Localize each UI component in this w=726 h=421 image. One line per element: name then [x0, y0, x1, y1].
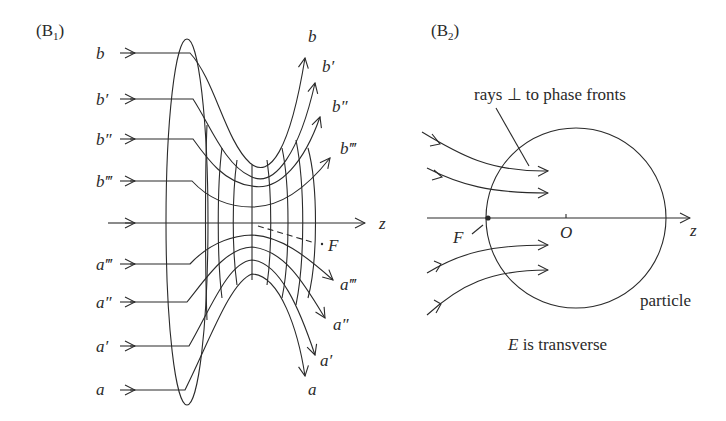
particle-label: particle — [640, 291, 691, 310]
svg-text:a″: a″ — [96, 293, 113, 312]
focus-label-b1: F — [327, 236, 339, 255]
svg-text:b″: b″ — [96, 130, 113, 149]
svg-text:b‴: b‴ — [96, 172, 113, 191]
lens-ellipse — [166, 39, 208, 405]
labels-incoming: b b′ b″ b‴ a‴ a″ a′ a — [96, 44, 113, 399]
origin-label: O — [560, 223, 572, 242]
svg-text:a′: a′ — [96, 337, 109, 356]
rays-bottom — [130, 235, 333, 390]
panel-b2-label: (B2) — [431, 21, 459, 42]
focus-point-b2 — [485, 215, 490, 220]
svg-text:b: b — [308, 27, 317, 46]
svg-text:a‴: a‴ — [96, 255, 113, 274]
svg-text:a′: a′ — [320, 351, 333, 370]
focus-label-b2: F — [452, 228, 464, 247]
svg-text:a‴: a‴ — [340, 275, 357, 294]
panel-b1: (B1) — [36, 21, 386, 405]
svg-text:a: a — [308, 380, 317, 399]
svg-text:a: a — [96, 380, 105, 399]
incoming-arrows — [108, 53, 135, 390]
focus-point-b1 — [321, 243, 323, 245]
svg-text:b′: b′ — [322, 57, 335, 76]
caption: E is transverse — [507, 335, 607, 354]
panel-b2: (B2) rays ⊥ to phase fronts F O z partic… — [422, 21, 697, 354]
rays-b2 — [422, 132, 548, 315]
annotation-leader — [496, 108, 529, 166]
rays-top — [130, 53, 330, 207]
panel-b1-label: (B1) — [36, 21, 64, 42]
svg-text:a″: a″ — [333, 315, 350, 334]
axis-label-z-b2: z — [689, 221, 697, 240]
svg-text:b‴: b‴ — [340, 139, 357, 158]
annotation-text: rays ⊥ to phase fronts — [474, 85, 626, 104]
axis-label-z-b1: z — [378, 214, 386, 233]
focus-leader-b2 — [472, 225, 483, 234]
focus-dashed-line — [258, 226, 315, 243]
svg-text:b: b — [96, 44, 105, 63]
svg-text:b′: b′ — [96, 90, 109, 109]
svg-text:b″: b″ — [332, 97, 349, 116]
